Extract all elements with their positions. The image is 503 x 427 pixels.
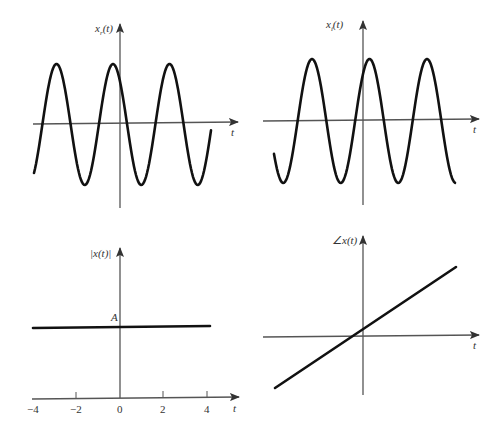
x-axis-label: t xyxy=(473,123,477,135)
x-axis-label: t xyxy=(473,339,477,351)
x-axis xyxy=(263,335,479,337)
panel-real-part: xr(t) t xyxy=(33,22,238,208)
level-label: A xyxy=(110,311,118,323)
panel-imag-part: xi(t) t xyxy=(263,18,479,205)
tick-label: 0 xyxy=(117,403,123,415)
x-axis-label: t xyxy=(231,126,235,138)
y-axis-label: ∠x(t) xyxy=(332,234,358,247)
x-axis xyxy=(263,119,479,121)
tick-label: −4 xyxy=(27,403,39,415)
y-axis-label: xi(t) xyxy=(325,18,344,33)
x-axis xyxy=(33,122,238,124)
tick-label: 2 xyxy=(160,403,166,415)
panel-phase: ∠x(t) t xyxy=(263,234,479,395)
panel-magnitude: A |x(t)| t −4 −2 0 2 4 xyxy=(27,247,239,415)
tick-label: −2 xyxy=(70,403,82,415)
figure-canvas: xr(t) t xi(t) t A |x(t)| t −4 −2 0 2 4 ∠… xyxy=(0,0,503,427)
phase-line xyxy=(275,267,456,388)
y-axis-label: xr(t) xyxy=(94,22,113,37)
real-part-curve xyxy=(34,64,211,185)
x-axis xyxy=(32,397,239,399)
tick-label: 4 xyxy=(204,403,210,415)
y-axis-label: |x(t)| xyxy=(90,247,111,260)
magnitude-line xyxy=(33,326,210,328)
x-axis-label: t xyxy=(233,402,237,414)
